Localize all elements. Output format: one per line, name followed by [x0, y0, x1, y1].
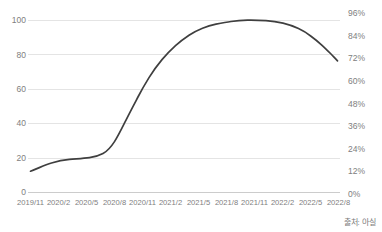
series-line-index: [31, 20, 338, 171]
line-chart: 100 80 60 40 20 0 96% 84% 72% 60% 48% 36…: [0, 0, 382, 232]
x-tick-10: 2022/5: [299, 199, 322, 207]
y-right-tick-24: 24%: [348, 145, 378, 154]
x-tick-11: 2022/8: [327, 199, 350, 207]
x-tick-3: 2020/8: [103, 199, 126, 207]
y-right-tick-60: 60%: [348, 77, 378, 86]
y-right-tick-72: 72%: [348, 54, 378, 63]
y-left-tick-100: 100: [0, 16, 26, 25]
y-left-tick-0: 0: [0, 188, 26, 197]
x-tick-0: 2019/11: [17, 199, 44, 207]
y-left-tick-60: 60: [0, 85, 26, 94]
x-tick-8: 2021/11: [241, 199, 268, 207]
x-tick-6: 2021/5: [187, 199, 210, 207]
y-right-tick-0: 0%: [348, 190, 378, 199]
x-tick-4: 2020/11: [129, 199, 156, 207]
x-tick-1: 2020/2: [47, 199, 70, 207]
x-tick-7: 2021/8: [215, 199, 238, 207]
y-right-tick-12: 12%: [348, 167, 378, 176]
y-right-tick-84: 84%: [348, 32, 378, 41]
y-right-tick-48: 48%: [348, 100, 378, 109]
gridlines: [28, 20, 340, 158]
y-left-tick-80: 80: [0, 51, 26, 60]
y-left-tick-40: 40: [0, 119, 26, 128]
source-note: 출처: 아실: [344, 216, 376, 227]
x-tick-5: 2021/2: [159, 199, 182, 207]
x-tick-9: 2022/2: [271, 199, 294, 207]
y-right-tick-36: 36%: [348, 122, 378, 131]
x-tick-2: 2020/5: [75, 199, 98, 207]
y-right-tick-96: 96%: [348, 9, 378, 18]
y-left-tick-20: 20: [0, 154, 26, 163]
